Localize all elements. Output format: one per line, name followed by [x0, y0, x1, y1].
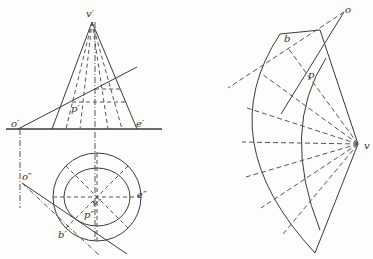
top-view	[22, 153, 141, 256]
label-v-double-prime: v″	[92, 198, 101, 208]
label-p-double-prime: p″	[84, 210, 94, 220]
label-b-prime: b′	[58, 230, 67, 240]
cone-right-edge	[92, 22, 137, 129]
label-v-prime: v′	[86, 9, 94, 19]
label-p: p	[308, 70, 314, 80]
label-e-prime: e′	[136, 119, 144, 129]
diagram-canvas: v′ o′ p′ e′ o″ v″ p″ e″ b′ o b p v	[0, 0, 373, 259]
dev-edge-top	[320, 30, 358, 144]
label-p-prime: p′	[71, 104, 80, 114]
diagram-svg	[0, 0, 373, 259]
front-view	[6, 22, 162, 240]
dev-cut-line	[281, 12, 344, 114]
label-b: b	[284, 34, 290, 44]
label-o-double-prime: o″	[22, 172, 32, 182]
label-o-prime: o′	[11, 119, 19, 129]
label-e-double-prime: e″	[137, 190, 147, 200]
development-view	[228, 12, 358, 253]
dev-edge-bottom	[315, 144, 358, 253]
label-o: o	[345, 5, 351, 15]
label-v: v	[364, 141, 370, 151]
cutting-line-top-a	[22, 183, 127, 254]
